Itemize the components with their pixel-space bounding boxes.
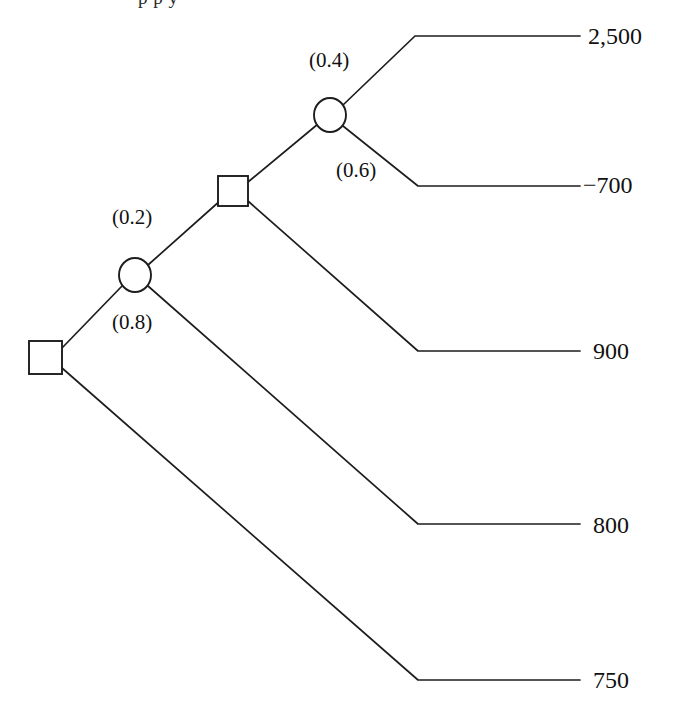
tree-graphics bbox=[0, 0, 681, 714]
branch-chance2-to-payoff-minus-700 bbox=[343, 126, 580, 186]
branch-decision2-to-chance2 bbox=[248, 124, 318, 182]
decision-tree-diagram: p p y (0.2) (0.8) (0.4) (0.6) 2,500 −700… bbox=[0, 0, 681, 714]
probability-label-0-6: (0.6) bbox=[336, 160, 376, 181]
branch-chance1-to-payoff-800 bbox=[148, 286, 580, 524]
branch-chance1-to-decision2 bbox=[148, 200, 221, 265]
decision-node-second[interactable] bbox=[218, 176, 248, 206]
decision-node-root[interactable] bbox=[29, 341, 62, 374]
probability-label-0-8: (0.8) bbox=[112, 312, 152, 333]
probability-label-0-4: (0.4) bbox=[309, 50, 349, 71]
probability-label-0-2: (0.2) bbox=[112, 207, 152, 228]
branch-chance2-to-payoff-2500 bbox=[343, 36, 580, 105]
payoff-label-2500: 2,500 bbox=[588, 24, 642, 48]
payoff-label-750: 750 bbox=[593, 668, 629, 692]
chance-node-first[interactable] bbox=[119, 258, 151, 292]
payoff-label-minus-700: −700 bbox=[583, 173, 633, 197]
payoff-label-800: 800 bbox=[593, 513, 629, 537]
payoff-label-900: 900 bbox=[593, 339, 629, 363]
chance-node-second[interactable] bbox=[314, 98, 346, 132]
branch-decision2-to-payoff-900 bbox=[248, 201, 580, 351]
